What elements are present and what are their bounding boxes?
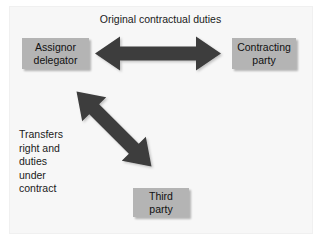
- node-assignor-delegator[interactable]: Assignor delegator: [22, 38, 89, 69]
- horizontal-double-arrow: [95, 37, 221, 71]
- caption-line: contract: [19, 182, 63, 196]
- diagram-title: Original contractual duties: [0, 13, 321, 25]
- node-label-line: Third: [149, 190, 173, 203]
- node-label-line: delegator: [34, 54, 78, 67]
- caption-line: under: [19, 169, 63, 183]
- caption-line: right and: [19, 142, 63, 156]
- transfer-caption: Transfers right and duties under contrac…: [19, 128, 63, 196]
- node-label-line: party: [149, 203, 172, 216]
- caption-line: Transfers: [19, 128, 63, 142]
- node-label-line: Contracting: [237, 41, 291, 54]
- node-label-line: party: [252, 54, 275, 67]
- caption-line: duties: [19, 155, 63, 169]
- node-third-party[interactable]: Third party: [133, 188, 189, 217]
- diagram-screenshot: Original contractual duties Assignor del…: [0, 0, 321, 242]
- node-contracting-party[interactable]: Contracting party: [232, 38, 296, 69]
- node-label-line: Assignor: [35, 41, 76, 54]
- diagonal-double-arrow: [65, 80, 164, 179]
